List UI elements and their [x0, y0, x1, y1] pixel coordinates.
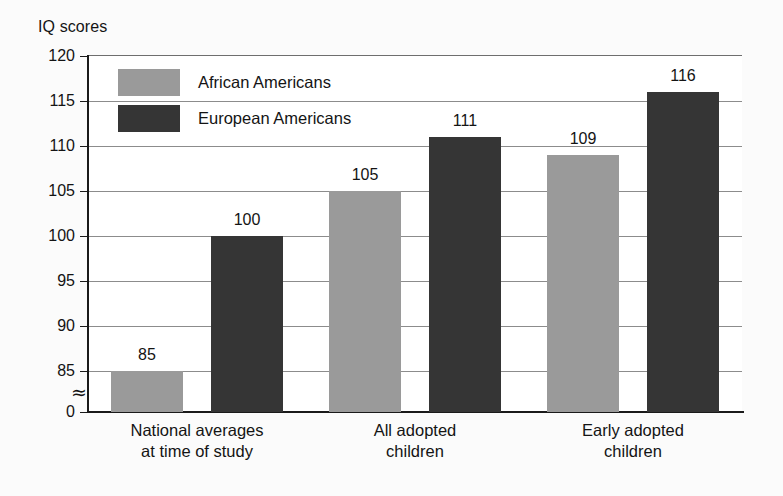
x-axis-label-1: National averagesat time of study: [82, 420, 312, 462]
bar-3-2: [647, 92, 719, 412]
bar-3-1: [547, 155, 619, 412]
x-label-line: children: [300, 441, 530, 462]
legend-label-european-americans: European Americans: [198, 109, 351, 128]
legend-item-african-americans: African Americans: [118, 64, 428, 100]
iq-scores-bar-chart: IQ scores 1201151101051009590850 ≈ 85100…: [0, 0, 783, 496]
legend-label-african-americans: African Americans: [198, 73, 331, 92]
bar-1-1: [111, 371, 183, 412]
bar-value-label-3-1: 109: [523, 130, 643, 148]
bar-value-label-1-1: 85: [87, 346, 207, 364]
x-axis-label-3: Early adoptedchildren: [518, 420, 748, 462]
legend-swatch-african-americans: [118, 69, 180, 96]
x-label-line: children: [518, 441, 748, 462]
x-axis-label-2: All adoptedchildren: [300, 420, 530, 462]
legend-swatch-european-americans: [118, 105, 180, 132]
x-label-line: National averages: [82, 420, 312, 441]
bar-value-label-1-2: 100: [187, 211, 307, 229]
legend-item-european-americans: European Americans: [118, 100, 428, 136]
bar-value-label-2-1: 105: [305, 166, 425, 184]
bar-2-1: [329, 191, 401, 412]
legend: African Americans European Americans: [118, 64, 428, 136]
x-label-line: All adopted: [300, 420, 530, 441]
bar-2-2: [429, 137, 501, 412]
bar-value-label-3-2: 116: [623, 67, 743, 85]
x-label-line: at time of study: [82, 441, 312, 462]
x-label-line: Early adopted: [518, 420, 748, 441]
bar-1-2: [211, 236, 283, 412]
